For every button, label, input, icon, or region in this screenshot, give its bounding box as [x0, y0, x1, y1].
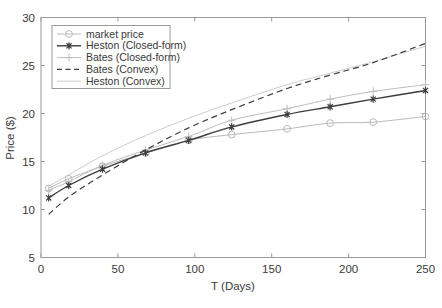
y-axis-tick-labels: 51015202530: [22, 12, 35, 264]
y-tick-label: 30: [22, 12, 35, 24]
series-heston-closed-form: [46, 87, 428, 202]
y-tick-label: 15: [22, 156, 35, 168]
data-point-marker: [228, 116, 236, 124]
legend-label: Heston (Convex): [86, 75, 165, 87]
x-tick-label: 0: [38, 263, 44, 275]
plot-canvas: 050100150200250 51015202530 T (Days) Pri…: [0, 0, 442, 308]
legend-label: Bates (Convex): [86, 63, 158, 75]
x-tick-label: 250: [416, 263, 435, 275]
y-tick-label: 20: [22, 108, 35, 120]
y-tick-label: 10: [22, 204, 35, 216]
legend-label: Bates (Closed-form): [86, 51, 180, 63]
data-point-marker: [326, 95, 334, 103]
x-axis-title: T (Days): [211, 280, 255, 292]
x-tick-label: 50: [112, 263, 125, 275]
x-tick-label: 100: [185, 263, 204, 275]
series-market-price: [45, 113, 429, 192]
x-axis-tick-labels: 050100150200250: [38, 263, 435, 275]
x-tick-label: 200: [339, 263, 358, 275]
legend-label: Heston (Closed-form): [86, 39, 186, 51]
y-tick-label: 5: [29, 252, 35, 264]
series-line: [49, 116, 426, 188]
chart-figure: 050100150200250 51015202530 T (Days) Pri…: [0, 0, 442, 308]
series-line: [49, 90, 426, 198]
data-point-marker: [66, 182, 71, 189]
legend: market priceHeston (Closed-form)Bates (C…: [52, 26, 186, 89]
legend-label: market price: [86, 28, 144, 40]
data-point-marker: [369, 87, 377, 95]
y-axis-title: Price ($): [4, 116, 16, 160]
x-tick-label: 150: [262, 263, 281, 275]
y-tick-label: 25: [22, 60, 35, 72]
data-point-marker: [46, 194, 51, 201]
